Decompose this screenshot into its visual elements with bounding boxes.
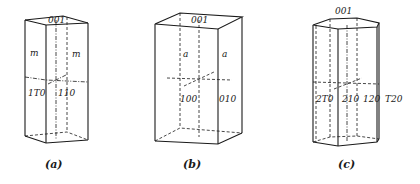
b-axis [313, 82, 379, 84]
bottom-front-edges [25, 136, 88, 143]
label-a-1-10: 1T0 [28, 88, 46, 98]
label-c-120: 120 [363, 94, 380, 104]
label-b-010: 010 [219, 94, 236, 104]
bottom-back-edges-hidden [313, 136, 379, 142]
caption-a: (a) [45, 158, 63, 171]
figure-a-prism: 001 m m 1T0 110 (a) [25, 15, 88, 171]
label-b-a-right: a [222, 49, 227, 59]
top-face [313, 18, 379, 29]
label-c-top: 001 [335, 6, 352, 16]
figure-c-prism: 001 2T0 210 120 T20 (c) [313, 6, 403, 171]
bottom-front-edges [313, 139, 379, 146]
a-axis [48, 75, 66, 84]
label-b-a-left: a [183, 49, 188, 59]
label-c-210: 210 [341, 94, 359, 104]
bottom-front-edges [155, 133, 242, 144]
label-c-1-20: T20 [385, 94, 403, 104]
label-b-100: 100 [180, 94, 197, 104]
label-a-top: 001 [48, 15, 65, 25]
figure-b-prism: 001 a a 100 010 (b) [155, 13, 242, 171]
label-a-m-right: m [72, 49, 81, 59]
caption-b: (b) [183, 158, 201, 171]
caption-c: (c) [338, 158, 355, 171]
label-c-2-10: 2T0 [315, 94, 334, 104]
label-a-110: 110 [58, 88, 75, 98]
crystal-forms-diagram: 001 m m 1T0 110 (a) 001 a a 100 010 (b) [0, 0, 420, 184]
label-b-top: 001 [191, 15, 208, 25]
label-a-m-left: m [30, 48, 39, 58]
